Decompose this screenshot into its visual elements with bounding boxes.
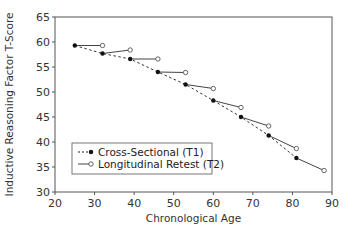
cross-sectional-point [211,98,215,102]
cross-sectional-point [266,133,270,137]
longitudinal-point [322,168,326,172]
y-tick-label: 35 [36,161,50,174]
longitudinal-segment [213,101,241,108]
cross-sectional-point [156,70,160,74]
x-tick-label: 60 [206,197,220,210]
longitudinal-point [266,124,270,128]
cross-sectional-point [294,156,298,160]
cross-sectional-point [183,82,187,86]
longitudinal-segment [186,85,214,89]
longitudinal-segment [269,136,297,149]
y-axis-ticks: 3035404550556065 [36,11,55,199]
cross-sectional-line [75,46,297,159]
y-axis-label: Inductive Reasoning Factor T-Score [3,13,15,197]
x-tick-label: 20 [48,197,62,210]
cross-sectional-point [73,43,77,47]
longitudinal-point [128,48,132,52]
longitudinal-point [100,43,104,47]
longitudinal-segment [102,50,130,54]
x-tick-label: 50 [167,197,181,210]
longitudinal-segment [241,117,269,126]
y-tick-label: 55 [36,61,50,74]
series-cross-sectional-line [75,46,297,159]
x-tick-label: 70 [246,197,260,210]
y-tick-label: 45 [36,111,50,124]
x-tick-label: 40 [127,197,141,210]
y-tick-label: 60 [36,36,50,49]
longitudinal-point [156,57,160,61]
longitudinal-point [183,70,187,74]
legend-longitudinal-marker [89,162,93,166]
cross-sectional-point [239,115,243,119]
x-tick-label: 90 [325,197,339,210]
y-tick-label: 30 [36,186,50,199]
x-axis-label: Chronological Age [146,212,241,224]
legend-cross-sectional-marker [89,150,93,154]
longitudinal-point [294,146,298,150]
y-tick-label: 40 [36,136,50,149]
longitudinal-segment [296,158,324,171]
x-tick-label: 30 [88,197,102,210]
legend: Cross-Sectional (T1) Longitudinal Retest… [72,143,224,174]
longitudinal-point [211,86,215,90]
legend-longitudinal-label: Longitudinal Retest (T2) [98,158,224,170]
longitudinal-point [239,105,243,109]
legend-cross-sectional-label: Cross-Sectional (T1) [98,146,204,158]
longitudinal-segment [158,72,186,73]
y-tick-label: 65 [36,11,50,24]
x-axis-ticks: 2030405060708090 [48,192,339,210]
x-tick-label: 80 [285,197,299,210]
cross-sectional-point [128,57,132,61]
y-tick-label: 50 [36,86,50,99]
line-chart: 2030405060708090 3035404550556065 Chrono… [0,0,354,233]
cross-sectional-point [100,51,104,55]
